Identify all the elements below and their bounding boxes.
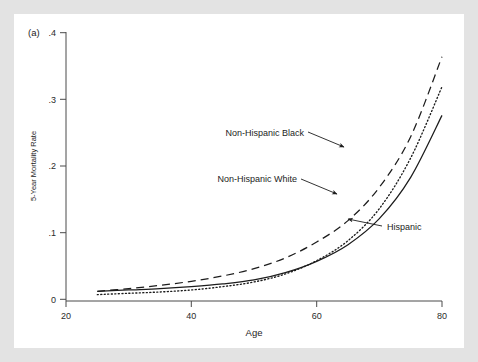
annotation-non-hispanic-white: Non-Hispanic White <box>217 174 337 194</box>
y-tick-label: .2 <box>48 161 56 171</box>
figure-panel: (a) .4 .3 .2 .1 0 20 40 60 8 <box>14 14 464 348</box>
series-line-hispanic <box>97 115 442 291</box>
x-axis-ticks: 20 40 60 80 <box>61 301 447 321</box>
annotation-label: Non-Hispanic Black <box>225 128 304 138</box>
annotation-label: Hispanic <box>387 222 422 232</box>
y-tick-label: .1 <box>48 228 56 238</box>
annotation-non-hispanic-black: Non-Hispanic Black <box>225 128 344 147</box>
x-axis-title: Age <box>246 327 263 338</box>
panel-label: (a) <box>28 27 40 38</box>
y-axis-title: 5-Year Mortality Rate <box>29 131 38 201</box>
annotation-label: Non-Hispanic White <box>217 174 297 184</box>
mortality-rate-line-chart: (a) .4 .3 .2 .1 0 20 40 60 8 <box>14 14 464 348</box>
y-axis-ticks: .4 .3 .2 .1 0 <box>48 28 66 305</box>
y-tick-label: .3 <box>48 95 56 105</box>
x-tick-label: 60 <box>312 311 322 321</box>
y-tick-label: 0 <box>51 295 56 305</box>
x-tick-label: 40 <box>186 311 196 321</box>
x-tick-label: 20 <box>61 311 71 321</box>
x-tick-label: 80 <box>437 311 447 321</box>
y-tick-label: .4 <box>48 28 56 38</box>
